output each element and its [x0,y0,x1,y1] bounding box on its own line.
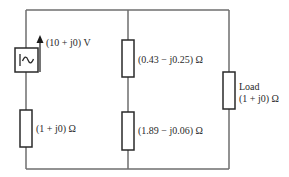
z1-impedance-label: (0.43 − j0.25) Ω [138,54,203,65]
ac-source-icon [15,48,38,72]
source-resistance-label: (1 + j0) Ω [36,123,76,134]
load-impedance-label: (1 + j0) Ω [239,93,279,104]
resistor-load-icon [223,72,235,109]
load-name-label: Load [239,81,260,92]
source-voltage-label: (10 + j0) V [46,37,91,48]
z2-impedance-label: (1.89 − j0.06) Ω [138,125,203,136]
resistor-z2-icon [122,112,134,150]
resistor-source-icon [20,110,32,147]
resistor-z1-icon [122,40,134,77]
